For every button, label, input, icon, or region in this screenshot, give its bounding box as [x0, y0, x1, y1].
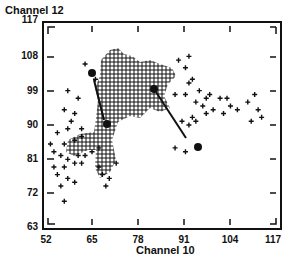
plus-marker — [103, 184, 108, 189]
scatter-plot — [0, 0, 294, 266]
plus-marker — [65, 88, 70, 93]
plus-marker — [55, 130, 60, 135]
plus-marker — [62, 107, 67, 112]
plot-frame — [43, 22, 281, 229]
plus-marker — [79, 126, 84, 131]
plus-marker — [249, 119, 254, 124]
plus-marker — [69, 119, 74, 124]
plus-marker — [256, 107, 261, 112]
plus-marker — [58, 153, 63, 158]
plus-marker — [186, 54, 191, 59]
plus-marker — [72, 161, 77, 166]
plus-marker — [48, 142, 53, 147]
plus-marker — [79, 161, 84, 166]
plus-marker — [228, 103, 233, 108]
plus-marker — [176, 58, 181, 63]
plus-marker — [197, 88, 202, 93]
plus-marker — [183, 65, 188, 70]
plus-marker — [218, 96, 223, 101]
plus-marker — [72, 180, 77, 185]
plus-marker — [221, 111, 226, 116]
plus-marker — [180, 119, 185, 124]
plus-marker — [76, 96, 81, 101]
plus-marker — [173, 92, 178, 97]
plus-marker — [204, 111, 209, 116]
plus-marker — [51, 149, 56, 154]
plus-marker — [62, 199, 67, 204]
plus-marker — [83, 61, 88, 66]
plus-marker — [259, 115, 264, 120]
plus-marker — [204, 96, 209, 101]
plus-marker — [207, 92, 212, 97]
plus-marker — [55, 172, 60, 177]
plus-marker — [245, 100, 250, 105]
dense-cluster — [66, 48, 176, 178]
plus-marker — [107, 176, 112, 181]
plus-marker — [58, 184, 63, 189]
plus-marker — [252, 92, 257, 97]
plus-marker — [200, 103, 205, 108]
plus-marker — [190, 77, 195, 82]
plus-marker — [235, 107, 240, 112]
plus-marker — [173, 145, 178, 150]
plus-marker — [72, 111, 77, 116]
plus-marker — [193, 100, 198, 105]
plus-marker — [62, 142, 67, 147]
plus-marker — [193, 119, 198, 124]
plus-marker — [51, 164, 56, 169]
plus-marker — [190, 115, 195, 120]
plus-marker — [183, 92, 188, 97]
plus-marker — [65, 126, 70, 131]
plus-marker — [65, 157, 70, 162]
plus-marker — [183, 149, 188, 154]
plus-marker — [211, 107, 216, 112]
plus-marker — [62, 164, 67, 169]
plus-marker — [225, 96, 230, 101]
plus-marker — [186, 81, 191, 86]
plus-marker — [83, 153, 88, 158]
plus-marker — [65, 176, 70, 181]
plus-marker — [186, 123, 191, 128]
